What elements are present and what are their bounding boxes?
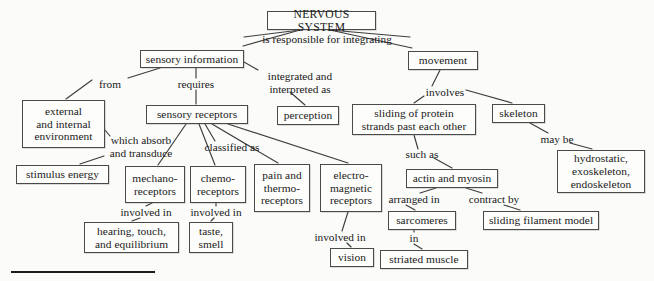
node-actin-myosin: actin and myosin <box>406 169 498 188</box>
link-label-may-be: may be <box>534 133 580 146</box>
node-label-movement: movement <box>419 54 467 67</box>
node-label-stimulus-energy: stimulus energy <box>26 168 99 181</box>
edge-em-involved <box>342 212 348 231</box>
link-label-involved-in-1: involved in <box>112 206 180 219</box>
node-label-sensory-receptors: sensory receptors <box>157 108 237 121</box>
node-movement: movement <box>408 51 478 70</box>
node-label-nervous-system: NERVOUS SYSTEM <box>272 8 371 34</box>
node-label-electromagnetic: electro- magnetic receptors <box>330 169 372 207</box>
link-label-classified-as: classified as <box>194 141 270 154</box>
node-sliding-protein: sliding of protein strands past each oth… <box>352 104 476 135</box>
edge-sensory-integrated <box>244 62 258 70</box>
edge-movement-involves <box>432 70 440 86</box>
node-taste-smell: taste, smell <box>189 222 233 253</box>
link-label-involved-in-2: involved in <box>182 206 250 219</box>
edge-skeleton-maybe <box>530 123 548 133</box>
edge-recep-classified <box>205 124 215 141</box>
concept-map-canvas: NERVOUS SYSTEMsensory informationmovemen… <box>0 0 654 281</box>
node-label-chemoreceptors: chemo- receptors <box>197 172 239 198</box>
node-stimulus-energy: stimulus energy <box>16 165 109 184</box>
link-label-integrated: integrated and interpreted as <box>255 70 345 96</box>
node-sarcomeres: sarcomeres <box>388 211 456 230</box>
link-label-arranged-in: arranged in <box>379 193 449 206</box>
edge-in-striated <box>414 244 422 249</box>
node-skeleton: skeleton <box>492 104 545 123</box>
node-chemoreceptors: chemo- receptors <box>190 166 246 203</box>
node-label-sliding-filament: sliding filament model <box>489 214 593 227</box>
link-label-involves: involves <box>419 86 471 99</box>
link-label-responsible: is responsible for integrating <box>243 33 411 46</box>
node-ext-int-env: external and internal environment <box>22 100 105 148</box>
node-hydrostatic: hydrostatic, exoskeleton, endoskeleton <box>557 150 645 193</box>
node-label-striated-muscle: striated muscle <box>389 253 458 266</box>
link-label-contract-by: contract by <box>460 193 528 206</box>
edge-from-env <box>66 80 92 99</box>
node-label-skeleton: skeleton <box>499 107 537 120</box>
node-label-perception: perception <box>284 109 333 122</box>
node-label-vision: vision <box>338 251 366 264</box>
node-label-actin-myosin: actin and myosin <box>413 172 492 185</box>
node-label-taste-smell: taste, smell <box>199 225 224 251</box>
link-label-from: from <box>92 78 128 91</box>
node-label-sarcomeres: sarcomeres <box>396 214 448 227</box>
node-nervous-system: NERVOUS SYSTEM <box>267 11 376 30</box>
node-hearing-touch: hearing, touch, and equilibrium <box>84 222 179 253</box>
link-label-which-absorb: which absorb and transduce <box>97 134 185 160</box>
node-sensory-info: sensory information <box>140 50 244 68</box>
edge-sensory-from <box>128 68 160 78</box>
link-label-such-as: such as <box>398 148 446 161</box>
node-electromagnetic: electro- magnetic receptors <box>320 164 382 212</box>
node-vision: vision <box>330 248 374 267</box>
node-label-ext-int-env: external and internal environment <box>34 105 92 143</box>
node-sliding-filament: sliding filament model <box>483 211 599 230</box>
link-label-in: in <box>404 232 424 245</box>
link-label-involved-in-3: involved in <box>306 231 374 244</box>
node-label-sensory-info: sensory information <box>146 53 238 66</box>
edge-involves-skeleton <box>466 90 512 103</box>
node-perception: perception <box>277 106 339 125</box>
node-sensory-receptors: sensory receptors <box>146 105 248 124</box>
edge-arranged-sarco <box>406 205 415 210</box>
baseline-rule <box>11 271 155 273</box>
link-label-requires: requires <box>169 78 223 91</box>
edge-contract-filament <box>504 205 520 210</box>
node-label-sliding-protein: sliding of protein strands past each oth… <box>362 107 467 133</box>
node-label-pain-thermo: pain and thermo- receptors <box>261 169 303 207</box>
node-pain-thermo: pain and thermo- receptors <box>254 164 310 212</box>
node-mechanoreceptors: mechano- receptors <box>125 166 185 203</box>
node-label-mechanoreceptors: mechano- receptors <box>132 172 177 198</box>
node-striated-muscle: striated muscle <box>380 250 468 269</box>
node-label-hearing-touch: hearing, touch, and equilibrium <box>95 225 168 251</box>
node-label-hydrostatic: hydrostatic, exoskeleton, endoskeleton <box>571 152 632 190</box>
edge-sliding-suchas <box>414 135 418 149</box>
